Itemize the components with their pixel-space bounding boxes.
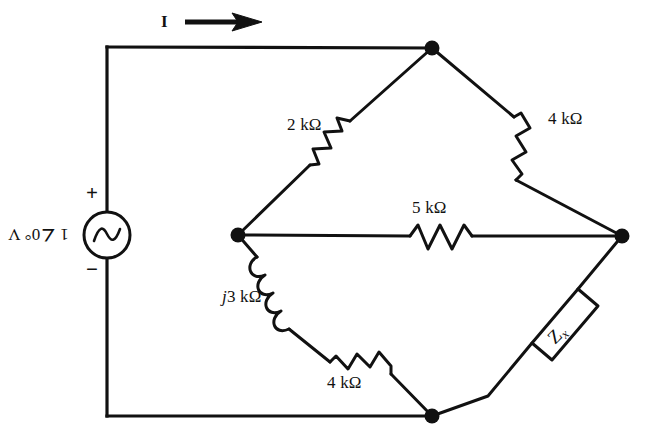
resistor-2k-label: 2 kΩ [287,116,322,133]
wire-top [107,47,432,48]
wire-zx-to-bottom [432,343,532,416]
node-dot-top [425,41,440,56]
source-plus-sign: + [86,183,98,204]
current-label: I [161,13,168,30]
resistor-4k-bottom-label: 4 kΩ [327,374,362,391]
node-dot-left [231,228,246,243]
source-minus-sign: − [86,259,98,280]
resistor-4k-top-label: 4 kΩ [548,110,583,127]
wire-left-to-r2k [238,165,310,235]
resistor-5k-zigzag [410,225,472,249]
circuit-schematic [0,0,650,441]
node-dot-right [615,229,630,244]
source-value-label: 1 ∠0° V [8,226,69,243]
ac-source-symbol [84,212,130,258]
impedance-box-zx [532,289,598,360]
wire-left-to-r5k [238,235,410,236]
inductor-j3k-label: j3 kΩ [222,288,262,305]
wire-r4kbot-to-bottom [391,374,432,416]
current-arrow-icon [185,13,262,31]
resistor-4k-top-zigzag [512,113,530,180]
junction-dots [231,41,630,424]
wire-ind-to-r4kbot [289,329,330,362]
wire-right-to-zx [578,236,622,289]
circuit-diagram-canvas: I + − 1 ∠0° V 2 kΩ 4 kΩ 5 kΩ j3 kΩ 4 kΩ … [0,0,650,441]
wire-r2k-to-top [350,48,432,121]
inductor-value-rest: 3 kΩ [227,287,262,306]
wire-top-to-r4ktop [432,48,514,117]
node-dot-bottom [425,409,440,424]
resistor-5k-label: 5 kΩ [412,199,447,216]
wire-r4ktop-to-right [516,180,622,236]
resistor-4k-bottom-zigzag [330,352,391,374]
